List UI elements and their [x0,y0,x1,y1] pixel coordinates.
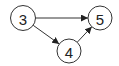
node-5: 5 [88,6,112,30]
edge-3-to-4 [33,25,59,44]
directed-graph: 3 5 4 [0,0,119,66]
node-3: 3 [11,6,36,31]
node-4-label: 4 [65,44,73,61]
nodes: 3 5 4 [11,6,113,64]
node-5-label: 5 [96,11,104,28]
node-3-label: 3 [19,11,27,28]
edge-4-to-5 [77,27,92,43]
edges [33,18,92,44]
node-4: 4 [57,39,81,63]
graph-svg: 3 5 4 [0,0,119,66]
